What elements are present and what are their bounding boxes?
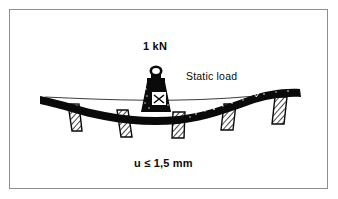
deflection-limit-label: u ≤ 1,5 mm xyxy=(134,157,193,169)
static-load-label: Static load xyxy=(186,70,237,82)
force-label: 1 kN xyxy=(143,40,167,52)
static-load-diagram xyxy=(0,0,338,199)
figure-root: 1 kN Static load u ≤ 1,5 mm xyxy=(0,0,338,199)
support-post-5 xyxy=(272,97,287,124)
static-load-weight xyxy=(141,67,171,112)
